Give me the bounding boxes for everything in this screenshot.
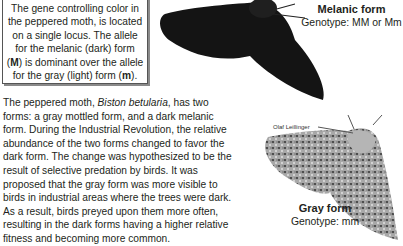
species-name: Biston betularia — [98, 97, 168, 108]
info-line: (M) is dominant over the allele — [4, 56, 146, 69]
info-line: the peppered moth, is located — [4, 15, 146, 28]
photo-credit: Olaf Leillinger — [273, 124, 310, 130]
melanic-genotype: Genotype: MM or Mm — [300, 16, 403, 29]
melanic-label: Melanic form Genotype: MM or Mm — [300, 3, 403, 29]
gray-genotype: Genotype: mm — [260, 215, 390, 228]
info-line: on a single locus. The allele — [4, 29, 146, 42]
description-paragraph: The peppered moth, Biston betularia, has… — [3, 96, 239, 246]
info-box: The gene controlling color in the pepper… — [2, 0, 148, 84]
gray-title: Gray form — [260, 202, 390, 215]
dominant-allele: M — [10, 57, 19, 68]
melanic-title: Melanic form — [300, 3, 403, 16]
info-line: for the gray (light) form (m). — [4, 69, 146, 82]
info-line: The gene controlling color in — [4, 2, 146, 15]
recessive-allele: m — [122, 70, 131, 81]
gray-label: Gray form Genotype: mm — [260, 202, 390, 228]
info-line: for the melanic (dark) form — [4, 42, 146, 55]
